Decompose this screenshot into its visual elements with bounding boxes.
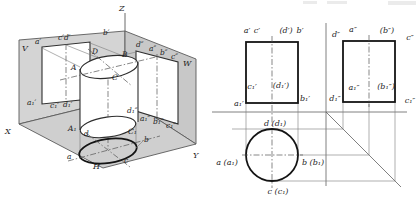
axo-label-b-dblprime: b″ — [160, 48, 168, 57]
front-label-d-prime: (d′) — [279, 26, 292, 35]
axo-label-a: a — [67, 152, 71, 161]
axo-label-A1: A₁ — [67, 124, 76, 133]
page-crop-artifact-mark — [303, 1, 317, 4]
front-label-c1-prime: c₁′ — [247, 82, 257, 91]
axo-label-b: b — [144, 135, 149, 144]
top-label-a: a (a₁) — [216, 158, 238, 167]
axo-label-d1-prime: d₁′ — [63, 100, 73, 109]
side-label-d1-dblprime: d₁″ — [329, 94, 340, 103]
axo-label-C: C — [112, 73, 118, 82]
axo-label-a1-dblprime: a₁″ — [140, 114, 150, 123]
axo-label-cd-prime: c′d′ — [58, 33, 71, 42]
w-plane-label: W — [183, 59, 192, 68]
side-label-d-dblprime: d″ — [332, 30, 340, 39]
front-label-b-prime: b′ — [297, 26, 304, 35]
axo-label-a-prime: a′ — [35, 37, 41, 46]
axo-label-d: d — [84, 129, 89, 138]
axo-label-c-dblprime: c″ — [171, 52, 178, 61]
page-crop-artifact — [303, 1, 416, 5]
axo-label-d-dblprime: d″ — [136, 40, 144, 49]
side-label-a1-dblprime: a₁″ — [349, 83, 360, 92]
axo-label-C1: C₁ — [128, 127, 137, 136]
front-label-a1-prime: a₁′ — [234, 99, 244, 108]
side-label-c1-dblprime: c₁″ — [405, 96, 416, 105]
axo-label-b1-dblprime: b₁″ — [153, 117, 164, 126]
page-crop-artifact-mark — [327, 1, 347, 4]
front-label-d1-prime: (d₁′) — [273, 81, 289, 90]
front-label-c-prime: c′ — [254, 26, 260, 35]
axonometric-view: Z X Y V W H a′ c′d′ b′ a₁′ c₁′ d₁′ d″ a″… — [4, 4, 199, 171]
projection-figure-svg: Z X Y V W H a′ c′d′ b′ a₁′ c₁′ d₁′ d″ a″… — [0, 0, 420, 198]
axo-label-A: A — [70, 63, 77, 72]
page-crop-artifact-mark — [388, 1, 416, 5]
axo-label-B: B — [121, 50, 128, 59]
axo-label-D: D — [91, 47, 98, 56]
axo-label-a1-prime: a₁′ — [27, 98, 36, 107]
side-label-a-dblprime: a″ — [349, 25, 357, 34]
top-label-b: b (b₁) — [302, 158, 324, 167]
orthographic-views: a′ c′ (d′) b′ c₁′ (d₁′) a₁′ b₁′ d″ a″ (b… — [212, 23, 415, 196]
side-label-b1-dblprime: (b₁″) — [377, 82, 395, 91]
figure-canvas: Z X Y V W H a′ c′d′ b′ a₁′ c₁′ d₁′ d″ a″… — [0, 0, 420, 198]
front-label-b1-prime: b₁′ — [300, 94, 310, 103]
construction-lines — [232, 102, 395, 181]
front-label-a-prime: a′ — [244, 26, 251, 35]
side-label-c-dblprime: c″ — [406, 33, 413, 42]
top-label-c: c (c₁) — [268, 187, 289, 196]
z-axis-label: Z — [118, 4, 125, 13]
miter-line — [326, 112, 401, 187]
h-plane-label: H — [92, 162, 101, 171]
side-label-b-dblprime: (b″) — [380, 26, 394, 35]
x-axis-label: X — [4, 127, 11, 136]
axo-label-b-prime: b′ — [103, 28, 110, 37]
y-axis-label: Y — [193, 151, 199, 160]
top-label-d: d (d₁) — [264, 119, 286, 128]
axo-label-c1-dblprime: c₁″ — [166, 121, 176, 130]
axo-label-a-dblprime: a″ — [149, 44, 156, 53]
axo-label-c1-prime: c₁′ — [50, 101, 59, 110]
axo-label-d1-dblprime: d₁″ — [127, 106, 138, 115]
